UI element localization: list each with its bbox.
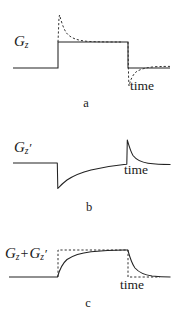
panel-c-signal-base2: G xyxy=(29,245,40,261)
panel-b-signal-base: G xyxy=(14,139,25,155)
panel-a-waveforms xyxy=(13,15,171,86)
panel-c-letter: c xyxy=(78,296,98,311)
panel-c-signal-plus: + xyxy=(20,246,30,261)
panel-c-signal-prime: ′ xyxy=(44,246,47,261)
panel-a-overshoot-path xyxy=(58,15,122,42)
panel-a-signal-sub: z xyxy=(25,40,29,50)
panel-b-letter: b xyxy=(79,200,99,215)
panel-c-time-label: time xyxy=(120,278,144,292)
panel-c-signal-base: G xyxy=(5,245,16,261)
panel-a-ideal-pulse-path xyxy=(13,42,170,68)
panel-c-ideal-pulse-path xyxy=(58,250,160,277)
panel-a-time-label: time xyxy=(130,79,154,93)
panel-a-signal-label: Gz xyxy=(14,34,29,51)
panel-c-signal-label: Gz+Gz′ xyxy=(5,246,47,263)
panel-a-letter: a xyxy=(76,96,96,111)
panel-a-signal-base: G xyxy=(14,33,25,49)
panel-b-time-label: time xyxy=(124,163,148,177)
figure-root: Gz time a Gz′ time b Gz+Gz′ time c xyxy=(0,0,173,318)
panel-b-signal-prime: ′ xyxy=(29,140,32,155)
panel-c-signal-sub: z xyxy=(16,252,20,262)
panel-b-signal-label: Gz′ xyxy=(14,140,31,157)
